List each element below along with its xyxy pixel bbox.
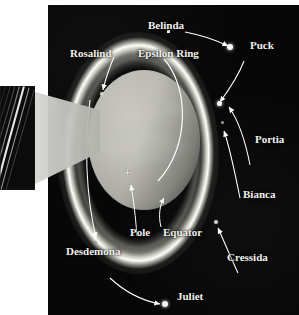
leader-belinda — [185, 32, 228, 46]
moon-portia — [217, 101, 222, 106]
leader-rosalind — [103, 57, 114, 90]
leader-juliet — [110, 278, 160, 304]
ring-closeup-image — [0, 86, 35, 190]
label-bianca: Bianca — [243, 188, 275, 200]
ring-closeup-inset — [0, 86, 35, 190]
moon-juliet — [162, 301, 168, 307]
label-puck: Puck — [250, 39, 274, 51]
moon-cressida — [214, 220, 218, 224]
leader-desdemona — [87, 100, 96, 238]
moon-puck — [227, 44, 233, 50]
label-cressida: Cressida — [227, 251, 268, 263]
label-portia: Portia — [255, 133, 284, 145]
moon-bianca — [221, 121, 224, 124]
equator-pointer — [160, 198, 164, 227]
leader-portia — [229, 107, 250, 165]
leader-bianca — [224, 131, 240, 198]
label-epsilon-ring: Epsilon Ring — [138, 47, 199, 59]
equator-arc — [158, 59, 182, 181]
moon-desdemona — [94, 241, 97, 244]
label-juliet: Juliet — [177, 290, 203, 302]
label-pole: Pole — [130, 226, 150, 238]
label-belinda: Belinda — [148, 19, 184, 31]
pole-cross-marker: + — [124, 167, 131, 179]
moon-rosalind — [100, 92, 104, 96]
label-equator: Equator — [163, 226, 202, 238]
figure-canvas: + — [0, 0, 299, 315]
label-desdemona: Desdemona — [66, 245, 120, 257]
leader-puck — [220, 61, 244, 102]
label-rosalind: Rosalind — [70, 47, 112, 59]
